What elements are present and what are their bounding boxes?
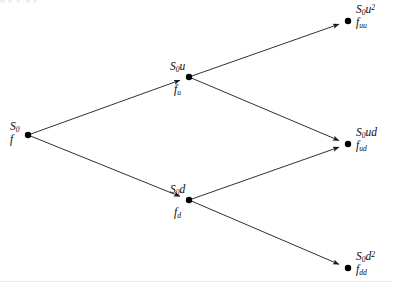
node-label-up: S0u	[170, 60, 185, 74]
node-price-up: S0u	[170, 60, 185, 74]
binomial-tree-figure: g p p g p	[0, 0, 393, 288]
node-value-root: f	[10, 133, 13, 145]
node-value-up: fu	[174, 83, 181, 97]
node-price-root: S0	[10, 120, 20, 134]
tree-canvas	[0, 0, 393, 288]
node-label-down: S0d	[170, 183, 185, 197]
node-price-updown: S0ud	[356, 126, 377, 140]
bottom-divider	[0, 281, 393, 282]
node-value-downdown: fdd	[356, 263, 367, 277]
node-price-down: S0d	[170, 183, 185, 197]
node-price-upup: S0u2	[356, 3, 375, 17]
node-down	[186, 197, 192, 203]
node-updown	[345, 141, 351, 147]
node-label-root: S0 f	[10, 120, 20, 145]
node-root	[25, 132, 31, 138]
node-label-downdown: S0d2 fdd	[356, 250, 375, 277]
node-label-upup: S0u2 fuu	[356, 3, 375, 30]
node-value-label-up: fu	[174, 84, 181, 97]
edge-up-updown	[189, 77, 339, 141]
edge-root-up	[28, 80, 180, 135]
node-downdown	[345, 265, 351, 271]
edge-root-down	[28, 135, 180, 196]
edge-down-downdown	[189, 200, 339, 264]
node-label-updown: S0ud fud	[356, 126, 377, 153]
node-price-downdown: S0d2	[356, 250, 375, 264]
node-up	[186, 74, 192, 80]
node-value-upup: fuu	[356, 16, 367, 30]
edge-down-updown	[189, 147, 339, 200]
tree-nodes	[25, 18, 351, 271]
node-upup	[345, 18, 351, 24]
node-value-updown: fud	[356, 139, 367, 153]
node-value-label-down: fd	[174, 207, 181, 220]
edge-up-upup	[189, 24, 339, 77]
node-value-down: fd	[174, 206, 181, 220]
